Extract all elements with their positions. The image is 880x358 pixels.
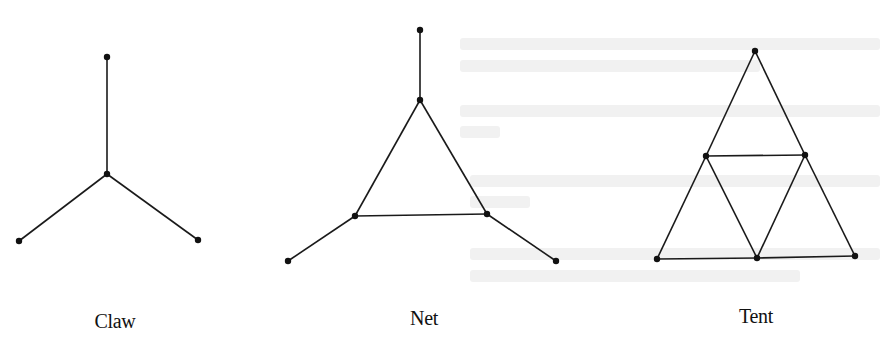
vertex bbox=[553, 258, 559, 264]
caption-claw: Claw bbox=[94, 310, 135, 333]
edge bbox=[19, 174, 107, 241]
vertex bbox=[703, 153, 709, 159]
graph-net bbox=[285, 27, 559, 264]
vertex bbox=[104, 171, 110, 177]
vertex bbox=[104, 54, 110, 60]
edge bbox=[288, 216, 355, 261]
vertex bbox=[852, 253, 858, 259]
edge bbox=[355, 214, 487, 216]
vertex bbox=[195, 237, 201, 243]
vertex bbox=[754, 255, 760, 261]
edge bbox=[487, 214, 556, 261]
edge bbox=[757, 256, 855, 258]
caption-tent: Tent bbox=[739, 305, 773, 328]
vertex bbox=[752, 48, 758, 54]
edge bbox=[706, 156, 757, 258]
graph-figure: Claw Net Tent bbox=[0, 0, 880, 358]
vertex bbox=[417, 27, 423, 33]
edge bbox=[657, 258, 757, 259]
edge bbox=[706, 155, 805, 156]
vertex bbox=[417, 97, 423, 103]
vertex bbox=[285, 258, 291, 264]
graph-tent bbox=[654, 48, 858, 262]
graph-claw bbox=[16, 54, 201, 244]
edge bbox=[755, 51, 805, 155]
vertex bbox=[352, 213, 358, 219]
caption-net: Net bbox=[410, 307, 438, 330]
vertex bbox=[654, 256, 660, 262]
edge bbox=[107, 174, 198, 240]
vertex bbox=[802, 152, 808, 158]
edge bbox=[757, 155, 805, 258]
edge bbox=[355, 100, 420, 216]
vertex bbox=[16, 238, 22, 244]
edge bbox=[420, 100, 487, 214]
edge bbox=[706, 51, 755, 156]
edge bbox=[657, 156, 706, 259]
edge bbox=[805, 155, 855, 256]
vertex bbox=[484, 211, 490, 217]
